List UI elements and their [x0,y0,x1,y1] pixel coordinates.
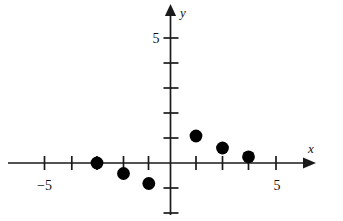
data-point [216,142,229,155]
x-axis-tick-label-pos5: 5 [274,178,281,193]
y-axis-arrowhead [165,4,176,16]
coordinate-plane-figure: −5 5 5 x y [0,0,343,221]
data-point [142,177,155,190]
y-axis-label: y [178,5,186,20]
scatter-plot-svg: −5 5 5 x y [0,0,343,221]
x-axis-label: x [307,141,314,156]
x-axis [8,157,316,168]
data-point [242,150,255,163]
data-point [91,157,104,170]
data-point [117,167,130,180]
y-axis-tick-label-pos5: 5 [153,31,160,46]
x-axis-tick-label-neg5: −5 [37,178,52,193]
data-point [190,130,203,143]
y-axis [165,4,176,215]
x-axis-arrowhead [303,157,316,168]
